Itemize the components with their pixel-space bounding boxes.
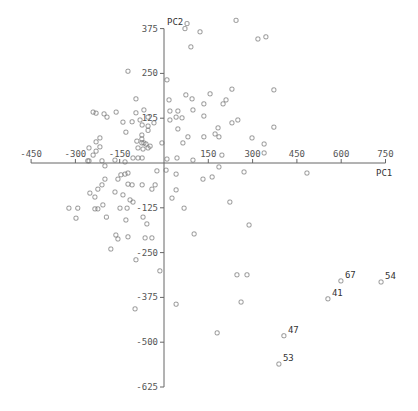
data-point [174, 188, 178, 192]
data-point [220, 153, 224, 157]
data-point [136, 156, 140, 160]
data-point [98, 145, 102, 149]
data-point [262, 151, 266, 155]
data-point [100, 183, 104, 187]
data-point [114, 110, 118, 114]
point-label: 53 [283, 353, 294, 363]
data-point [146, 128, 150, 132]
data-point [135, 139, 139, 143]
data-point [125, 206, 129, 210]
point-label: 47 [288, 325, 299, 335]
data-point [221, 102, 225, 106]
data-point [250, 136, 254, 140]
data-point [94, 140, 98, 144]
data-point [217, 165, 221, 169]
y-axis-label: PC2 [167, 17, 183, 27]
data-point [379, 280, 383, 284]
data-point [116, 237, 120, 241]
data-point [101, 203, 105, 207]
data-point [91, 153, 95, 157]
data-point [174, 172, 178, 176]
data-point [180, 116, 184, 120]
data-point [282, 334, 286, 338]
data-point [145, 222, 149, 226]
data-point [103, 177, 107, 181]
data-point [235, 273, 239, 277]
data-point [174, 115, 178, 119]
data-point [87, 146, 91, 150]
data-point [126, 171, 130, 175]
data-point [104, 215, 108, 219]
data-point [202, 102, 206, 106]
data-point [118, 206, 122, 210]
data-point [124, 218, 128, 222]
data-point [168, 118, 172, 122]
x-tick-label: -450 [20, 149, 42, 159]
data-point [224, 98, 228, 102]
data-point [202, 135, 206, 139]
data-point [150, 236, 154, 240]
data-point [192, 232, 196, 236]
data-point [181, 141, 185, 145]
data-point [183, 27, 187, 31]
x-tick-label: 300 [244, 149, 260, 159]
data-point [305, 171, 309, 175]
data-point [201, 177, 205, 181]
data-point [185, 22, 189, 26]
data-point [113, 190, 117, 194]
y-tick-label: -500 [136, 337, 158, 347]
x-tick-label: 450 [289, 149, 305, 159]
data-point [86, 159, 90, 163]
data-point [230, 87, 234, 91]
data-point [109, 247, 113, 251]
data-point [236, 118, 240, 122]
point-label: 41 [332, 288, 343, 298]
scatter-plot: -450-300-150150300450600750375250125-125… [0, 0, 418, 411]
data-point [123, 172, 127, 176]
data-point [121, 120, 125, 124]
data-point [93, 195, 97, 199]
data-point [96, 187, 100, 191]
data-point [116, 177, 120, 181]
data-point [158, 269, 162, 273]
data-point [202, 114, 206, 118]
data-point [153, 183, 157, 187]
data-point [168, 109, 172, 113]
data-point [228, 200, 232, 204]
data-point [210, 175, 214, 179]
data-point [114, 233, 118, 237]
point-label: 67 [345, 270, 356, 280]
data-point [103, 164, 107, 168]
data-point [186, 135, 190, 139]
data-point [191, 108, 195, 112]
data-point [176, 127, 180, 131]
data-point [150, 187, 154, 191]
data-point [87, 159, 91, 163]
data-point [126, 182, 130, 186]
data-point [121, 193, 125, 197]
point-labels: 4753675441 [283, 270, 396, 363]
data-point [213, 132, 217, 136]
x-axis-label: PC1 [376, 168, 392, 178]
data-point [119, 173, 123, 177]
x-tick-label: -300 [65, 149, 87, 159]
data-point [155, 169, 159, 173]
data-point [216, 126, 220, 130]
data-point [164, 168, 168, 172]
data-point [136, 146, 140, 150]
data-point [130, 120, 134, 124]
y-tick-label: 250 [142, 68, 158, 78]
data-point [133, 307, 137, 311]
data-point [140, 183, 144, 187]
data-point [239, 300, 243, 304]
data-point [126, 235, 130, 239]
data-point [160, 141, 164, 145]
data-point [134, 111, 138, 115]
data-point [175, 156, 179, 160]
data-point [174, 302, 178, 306]
data-point [189, 45, 193, 49]
data-point [242, 170, 246, 174]
data-point [67, 206, 71, 210]
y-tick-label: 375 [142, 24, 158, 34]
data-point [198, 30, 202, 34]
